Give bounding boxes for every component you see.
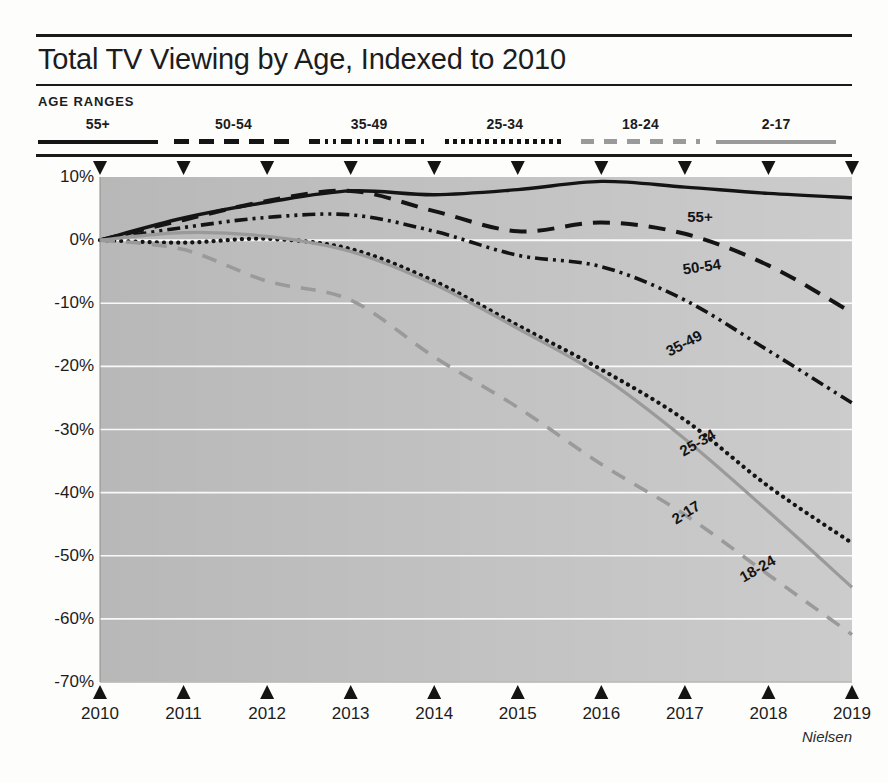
series-inline-label-55-: 55+ xyxy=(687,208,712,225)
chart-page: Total TV Viewing by Age, Indexed to 2010… xyxy=(0,0,888,783)
y-tick-label--70: -70% xyxy=(32,672,94,692)
top-tick-marker-2019 xyxy=(845,161,859,175)
bottom-tick-marker-2010 xyxy=(93,685,107,699)
y-tick-label--20: -20% xyxy=(32,356,94,376)
x-tick-label-2010: 2010 xyxy=(65,704,135,724)
bottom-tick-marker-2012 xyxy=(260,685,274,699)
top-tick-marker-2012 xyxy=(260,161,274,175)
top-tick-marker-2018 xyxy=(761,161,775,175)
x-tick-label-2012: 2012 xyxy=(232,704,302,724)
y-tick-label--30: -30% xyxy=(32,420,94,440)
bottom-tick-marker-2019 xyxy=(845,685,859,699)
top-tick-marker-2016 xyxy=(594,161,608,175)
y-tick-label-10: 10% xyxy=(32,167,94,187)
top-tick-marker-2013 xyxy=(344,161,358,175)
x-tick-label-2011: 2011 xyxy=(149,704,219,724)
plot-area: 10%0%-10%-20%-30%-40%-50%-60%-70% 201020… xyxy=(0,0,888,783)
y-tick-label--50: -50% xyxy=(32,546,94,566)
top-tick-marker-2010 xyxy=(93,161,107,175)
bottom-tick-marker-2011 xyxy=(177,685,191,699)
bottom-tick-marker-2013 xyxy=(344,685,358,699)
x-tick-label-2015: 2015 xyxy=(483,704,553,724)
top-tick-marker-2017 xyxy=(678,161,692,175)
top-tick-marker-2011 xyxy=(177,161,191,175)
y-tick-label-0: 0% xyxy=(32,230,94,250)
bottom-tick-marker-2015 xyxy=(511,685,525,699)
x-tick-label-2016: 2016 xyxy=(566,704,636,724)
bottom-tick-marker-2018 xyxy=(761,685,775,699)
bottom-tick-marker-2014 xyxy=(427,685,441,699)
x-tick-label-2014: 2014 xyxy=(399,704,469,724)
y-tick-label--40: -40% xyxy=(32,483,94,503)
y-axis-labels: 10%0%-10%-20%-30%-40%-50%-60%-70% xyxy=(24,0,94,783)
x-tick-label-2013: 2013 xyxy=(316,704,386,724)
bottom-tick-marker-2016 xyxy=(594,685,608,699)
y-tick-label--10: -10% xyxy=(32,293,94,313)
bottom-tick-marker-2017 xyxy=(678,685,692,699)
source-attribution: Nielsen xyxy=(802,728,852,745)
x-tick-label-2017: 2017 xyxy=(650,704,720,724)
top-tick-marker-2015 xyxy=(511,161,525,175)
chart-svg xyxy=(0,0,888,783)
top-tick-marker-2014 xyxy=(427,161,441,175)
y-tick-label--60: -60% xyxy=(32,609,94,629)
x-tick-label-2019: 2019 xyxy=(817,704,887,724)
x-tick-label-2018: 2018 xyxy=(733,704,803,724)
